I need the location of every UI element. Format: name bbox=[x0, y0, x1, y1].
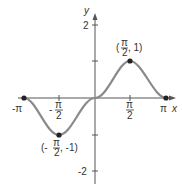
y-tick-label-2: 2 bbox=[83, 20, 89, 31]
x-tick-label-neg-pi: -π bbox=[12, 103, 22, 114]
x-tick-neg-sign: - bbox=[49, 104, 52, 115]
x-tick-neg-pi-half-num: π bbox=[55, 99, 62, 110]
x-tick-pi-half-den: 2 bbox=[127, 110, 133, 121]
x-tick-neg-pi-half-den: 2 bbox=[56, 110, 62, 121]
x-axis-label: x bbox=[171, 103, 178, 114]
y-tick-label-neg2: -2 bbox=[78, 166, 87, 177]
point-min-rest: , -1) bbox=[60, 142, 78, 153]
x-tick-pi-half-num: π bbox=[126, 99, 133, 110]
point-pi bbox=[163, 95, 168, 100]
point-min-open: (- bbox=[41, 142, 48, 153]
sine-graph: y x 2 -2 -π π - π 2 π 2 ( π 2 , 1) (- π … bbox=[0, 0, 182, 192]
y-axis-arrow-icon bbox=[93, 13, 98, 20]
y-axis-label: y bbox=[83, 5, 90, 16]
point-neg-pi bbox=[21, 95, 26, 100]
point-max bbox=[127, 58, 132, 63]
x-tick-label-pi: π bbox=[160, 103, 167, 114]
x-axis-arrow-icon bbox=[169, 96, 176, 101]
point-max-open: ( bbox=[116, 42, 120, 53]
point-max-rest: , 1) bbox=[128, 42, 142, 53]
